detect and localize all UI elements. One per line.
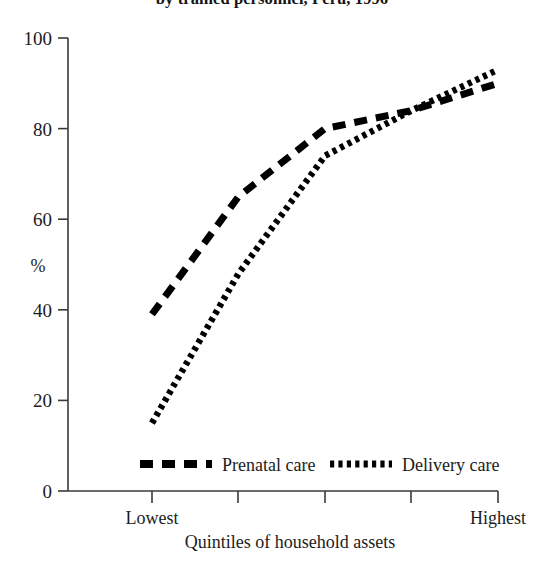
x-axis-ticks	[152, 491, 498, 503]
plot-area: 100 80 60 40 20 0 % Lowest Highest Quint…	[0, 0, 544, 566]
legend: Prenatal care Delivery care	[140, 455, 499, 475]
y-tick-label-20: 20	[33, 390, 52, 411]
y-tick-label-100: 100	[24, 28, 53, 49]
x-axis-title: Quintiles of household assets	[185, 532, 395, 552]
y-axis-title: %	[31, 256, 46, 276]
y-tick-label-40: 40	[33, 300, 52, 321]
legend-label-prenatal-care: Prenatal care	[222, 455, 315, 475]
chart-container: by trained personnel, Peru, 1996 100 80 …	[0, 0, 544, 566]
series-line-prenatal-care	[152, 83, 498, 314]
y-tick-label-60: 60	[33, 209, 52, 230]
x-tick-label-highest: Highest	[470, 508, 526, 528]
y-tick-label-80: 80	[33, 119, 52, 140]
y-axis-ticks	[58, 38, 68, 491]
y-tick-label-0: 0	[43, 481, 53, 502]
series-line-delivery-care	[152, 70, 498, 423]
legend-label-delivery-care: Delivery care	[402, 455, 499, 475]
x-tick-label-lowest: Lowest	[126, 508, 179, 528]
